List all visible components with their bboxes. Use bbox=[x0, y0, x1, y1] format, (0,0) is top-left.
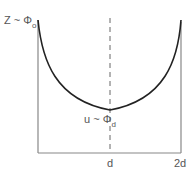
min-label: u ~ Φd bbox=[84, 113, 116, 129]
top-label: Z ~ Φo bbox=[4, 14, 37, 30]
potential-diagram: Z ~ Φo u ~ Φd d 2d bbox=[0, 0, 195, 174]
tick-2d: 2d bbox=[174, 157, 186, 169]
tick-d: d bbox=[107, 157, 113, 169]
